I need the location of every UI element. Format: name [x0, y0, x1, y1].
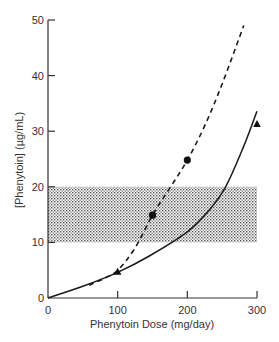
y-tick-label: 40	[32, 70, 44, 82]
x-tick-label: 100	[108, 304, 126, 316]
triangle-marker	[253, 120, 261, 127]
y-tick-label: 30	[32, 125, 44, 137]
x-tick-label: 0	[45, 304, 51, 316]
y-tick-label: 20	[32, 181, 44, 193]
y-axis-label: [Phenytoin] (µg/mL)	[13, 112, 25, 208]
x-tick-label: 300	[248, 304, 266, 316]
data-series	[48, 26, 261, 298]
circle-marker	[149, 212, 156, 219]
x-tick-label: 200	[178, 304, 196, 316]
y-tick-label: 50	[32, 14, 44, 26]
x-axis-label: Phenytoin Dose (mg/day)	[90, 318, 214, 330]
y-tick-label: 10	[32, 236, 44, 248]
y-tick-label: 0	[38, 292, 44, 304]
circle-marker	[184, 157, 191, 164]
phenytoin-dose-chart: 010203040500100200300 Phenytoin Dose (mg…	[0, 0, 279, 342]
